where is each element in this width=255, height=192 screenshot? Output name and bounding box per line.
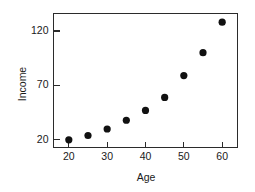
x-axis-ticks: 2030405060	[63, 142, 228, 162]
data-point	[161, 94, 168, 101]
data-point	[142, 107, 149, 114]
data-point	[65, 136, 72, 143]
data-point-group	[65, 19, 226, 144]
plot-svg: 2070120 2030405060 Age Income	[0, 0, 255, 192]
frame-border	[54, 14, 238, 148]
data-point	[123, 117, 130, 124]
y-tick-label: 120	[31, 24, 49, 36]
x-tick-label: 50	[178, 150, 190, 162]
y-tick-label: 70	[37, 78, 49, 90]
x-tick-label: 40	[140, 150, 152, 162]
data-point	[199, 49, 206, 56]
x-tick-label: 60	[216, 150, 228, 162]
data-point	[84, 132, 91, 139]
y-tick-label: 20	[37, 133, 49, 145]
data-point	[180, 72, 187, 79]
data-point	[219, 19, 226, 26]
scatter-chart: 2070120 2030405060 Age Income	[0, 0, 255, 192]
y-axis-title: Income	[16, 67, 28, 102]
x-tick-label: 30	[101, 150, 113, 162]
x-axis-title: Age	[137, 171, 156, 183]
data-point	[104, 125, 111, 132]
x-tick-label: 20	[63, 150, 75, 162]
y-axis-ticks: 2070120	[31, 24, 60, 145]
plot-frame	[54, 14, 238, 148]
